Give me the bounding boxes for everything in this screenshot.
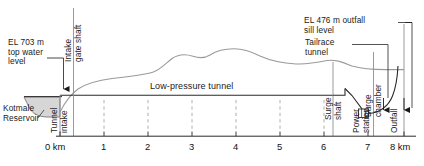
surge-shaft-label: Surge shaft bbox=[324, 97, 343, 120]
low-pressure-tunnel-label: Low-pressure tunnel bbox=[150, 82, 233, 92]
top-water-level-leader bbox=[47, 58, 64, 89]
axis-tick-label-1: 1 bbox=[101, 141, 106, 152]
axis-tick-label-2: 2 bbox=[145, 141, 150, 152]
tunnel-profile-diagram: EL 703 m top water level Intake gate sha… bbox=[0, 0, 424, 166]
outfall-sill-leader bbox=[405, 23, 412, 109]
axis-tick-label-8: 8 km bbox=[390, 141, 410, 152]
power-station-label: Power station bbox=[352, 108, 371, 133]
outfall-sill-level-label: EL 476 m outfall sill level bbox=[304, 16, 365, 35]
kotmale-reservoir-label: Kotmale Reservoir bbox=[3, 104, 39, 123]
intake-gate-shaft-label: Intake gate shaft bbox=[64, 25, 83, 62]
axis-tick-label-0: 0 km bbox=[45, 141, 65, 152]
top-water-level-label: EL 703 m top water level bbox=[8, 38, 44, 67]
axis-tick-label-7: 7 bbox=[365, 141, 370, 152]
chainage-gridlines bbox=[104, 100, 324, 133]
surge-shaft-tunnel-bend bbox=[333, 89, 345, 96]
axis-tick-label-6: 6 bbox=[321, 141, 326, 152]
axis-tick-label-5: 5 bbox=[277, 141, 282, 152]
tailrace-tunnel-label: Tailrace tunnel bbox=[305, 38, 334, 57]
axis-tick-label-4: 4 bbox=[233, 141, 238, 152]
axis-tick-label-3: 3 bbox=[189, 141, 194, 152]
tunnel-intake-label: Tunnel intake bbox=[50, 107, 69, 133]
outfall-label: Outfall bbox=[390, 108, 400, 133]
